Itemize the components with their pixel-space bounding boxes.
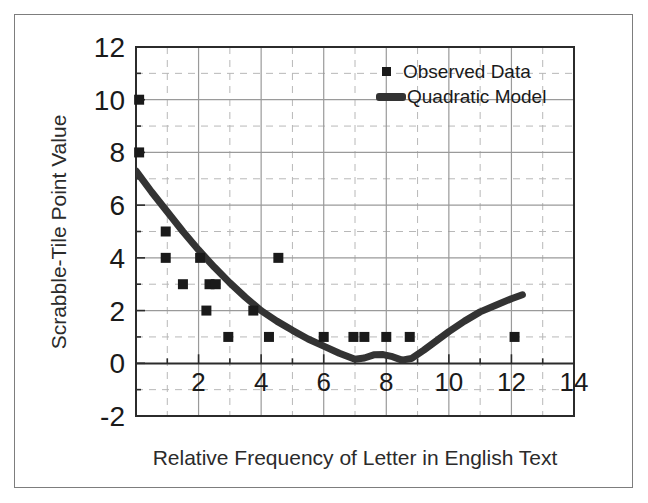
y-tick-labels: -2024681012 bbox=[94, 32, 125, 432]
x-tick-label: 14 bbox=[560, 367, 589, 397]
data-point-marker bbox=[248, 306, 258, 316]
data-point-marker bbox=[223, 332, 233, 342]
data-point-marker bbox=[359, 332, 369, 342]
legend-marker-quadratic-model bbox=[376, 93, 406, 101]
x-tick-label: 4 bbox=[254, 367, 268, 397]
data-point-marker bbox=[161, 253, 171, 263]
figure-container: 2468101214 -2024681012 Observed Data Qua… bbox=[0, 0, 648, 503]
data-point-marker bbox=[264, 332, 274, 342]
y-axis-title: Scrabble-Tile Point Value bbox=[47, 115, 70, 350]
x-tick-label: 6 bbox=[316, 367, 330, 397]
legend-marker-observed-data bbox=[382, 67, 391, 76]
data-point-marker bbox=[405, 332, 415, 342]
data-point-marker bbox=[348, 332, 358, 342]
y-tick-label: -2 bbox=[100, 401, 125, 432]
data-point-marker bbox=[134, 147, 144, 157]
data-point-marker bbox=[201, 306, 211, 316]
y-tick-label: 12 bbox=[94, 32, 125, 63]
y-tick-label: 8 bbox=[109, 137, 125, 168]
y-tick-label: 4 bbox=[109, 243, 125, 274]
data-point-marker bbox=[273, 253, 283, 263]
y-tick-label: 10 bbox=[94, 85, 125, 116]
data-point-marker bbox=[134, 95, 144, 105]
x-tick-label: 8 bbox=[379, 367, 393, 397]
data-point-marker bbox=[319, 332, 329, 342]
x-tick-label: 10 bbox=[434, 367, 463, 397]
legend-label-quadratic-model: Quadratic Model bbox=[407, 86, 546, 107]
x-tick-label: 2 bbox=[191, 367, 205, 397]
y-tick-label: 6 bbox=[109, 190, 125, 221]
y-tick-label: 2 bbox=[109, 296, 125, 327]
y-tick-label: 0 bbox=[109, 348, 125, 379]
data-point-marker bbox=[195, 253, 205, 263]
x-tick-label: 12 bbox=[497, 367, 526, 397]
legend-label-observed-data: Observed Data bbox=[403, 61, 531, 82]
data-point-marker bbox=[510, 332, 520, 342]
data-point-marker bbox=[161, 227, 171, 237]
data-point-marker bbox=[381, 332, 391, 342]
data-point-marker bbox=[211, 279, 221, 289]
x-axis-title: Relative Frequency of Letter in English … bbox=[153, 446, 558, 469]
scatter-chart: 2468101214 -2024681012 Observed Data Qua… bbox=[0, 0, 648, 503]
data-point-marker bbox=[178, 279, 188, 289]
